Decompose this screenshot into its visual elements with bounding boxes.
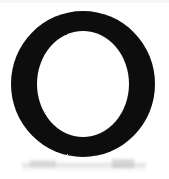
letter-o-glyph: Uppercase letter O rendered as a solid b…	[0, 0, 169, 179]
letter-o-ring	[11, 11, 155, 157]
glyph-canvas: Uppercase letter O rendered as a solid b…	[0, 0, 169, 179]
glyph-ink	[11, 11, 155, 157]
